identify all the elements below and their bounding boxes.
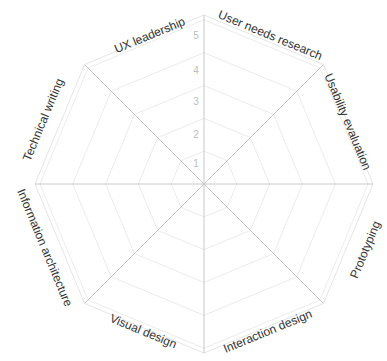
tick-label: 4 [193, 65, 199, 76]
category-label-prototyping: Prototyping [347, 219, 383, 280]
radial-tick-labels: 1 2 3 4 5 [193, 30, 199, 169]
category-label-technical-writing: Technical writing [20, 76, 67, 163]
radial-axes [35, 15, 373, 353]
tick-label: 1 [193, 158, 199, 169]
category-label-visual-design: Visual design [108, 311, 179, 351]
radial-axis-line [204, 65, 324, 185]
category-label-ux-leadership: UX leadership [112, 14, 187, 56]
tick-label: 3 [193, 96, 199, 107]
tick-label: 5 [193, 30, 199, 41]
category-labels: User needs research Usability evaluation… [14, 7, 383, 355]
category-label-usability-evaluation: Usability evaluation [322, 71, 375, 172]
radar-chart: 1 2 3 4 5 User needs research Usability … [0, 0, 387, 361]
tick-label: 2 [193, 129, 199, 140]
radial-axis-line [85, 184, 205, 304]
radial-axis-line [204, 184, 324, 304]
category-label-interaction-design: Interaction design [221, 307, 314, 356]
category-label-user-needs-research: User needs research [216, 7, 324, 63]
radial-axis-line [85, 65, 205, 185]
